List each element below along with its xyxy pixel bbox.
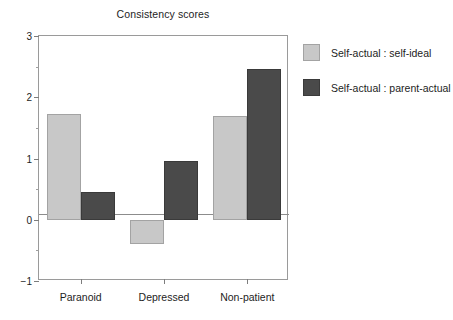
y-axis-label: 1	[26, 153, 32, 164]
legend-label: Self-actual : parent-actual	[331, 82, 451, 94]
x-tick	[247, 279, 248, 284]
y-axis-label: 3	[26, 31, 32, 42]
y-tick-minor	[36, 189, 39, 190]
chart-legend: Self-actual : self-idealSelf-actual : pa…	[303, 44, 451, 114]
bar	[47, 114, 81, 220]
bar	[164, 161, 198, 220]
bar	[130, 220, 164, 245]
light-gray-swatch	[303, 44, 320, 61]
y-axis-label: 2	[26, 92, 32, 103]
x-axis-label: Depressed	[139, 291, 190, 303]
bar	[81, 192, 115, 220]
x-tick	[164, 279, 165, 284]
y-axis-label: 0	[26, 214, 32, 225]
y-tick-major	[34, 220, 39, 221]
plot-area: 3210−1 ParanoidDepressedNon-patient	[38, 35, 288, 280]
chart-title: Consistency scores	[38, 8, 288, 20]
dark-gray-swatch	[303, 79, 320, 96]
y-tick-major	[34, 159, 39, 160]
y-tick-major	[34, 36, 39, 37]
y-tick-minor	[36, 67, 39, 68]
bar	[247, 69, 281, 220]
legend-label: Self-actual : self-ideal	[331, 47, 431, 59]
x-axis-label: Non-patient	[220, 291, 274, 303]
y-tick-major	[34, 281, 39, 282]
y-tick-minor	[36, 128, 39, 129]
y-tick-major	[34, 97, 39, 98]
legend-item: Self-actual : self-ideal	[303, 44, 451, 61]
bar-chart-figure: Consistency scores 3210−1 ParanoidDepres…	[0, 0, 453, 320]
bar	[213, 116, 247, 220]
y-axis-label: −1	[21, 276, 32, 287]
y-tick-minor	[36, 250, 39, 251]
legend-item: Self-actual : parent-actual	[303, 79, 451, 96]
x-axis-label: Paranoid	[60, 291, 102, 303]
x-tick	[81, 279, 82, 284]
